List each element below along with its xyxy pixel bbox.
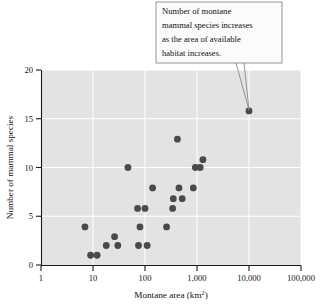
data-point — [94, 252, 101, 259]
y-axis-title: Number of mammal species — [5, 115, 15, 219]
y-tick-label: 20 — [24, 65, 33, 75]
data-point — [163, 224, 170, 231]
data-point — [170, 195, 177, 202]
data-point — [134, 205, 141, 212]
data-point — [169, 205, 176, 212]
x-tick-label: 1,000 — [187, 273, 206, 283]
data-point — [176, 185, 183, 192]
x-axis-title-base: Montane area (km — [134, 290, 201, 300]
x-tick-label: 1 — [39, 273, 43, 283]
data-point — [103, 242, 110, 249]
x-tick-label: 10 — [89, 273, 98, 283]
y-tick-label: 15 — [24, 114, 33, 124]
chart-svg: 0 5 10 15 20 1 10 100 1,000 10,000 100,0… — [0, 0, 326, 308]
data-point — [114, 242, 121, 249]
data-point — [179, 195, 186, 202]
data-point — [197, 164, 204, 171]
callout-line: mammal species increases — [162, 20, 253, 30]
callout-line: habitat increases. — [162, 48, 221, 58]
data-point — [190, 185, 197, 192]
callout-line: as the area of available — [162, 34, 241, 44]
x-tick-label: 100 — [139, 273, 152, 283]
data-point — [137, 224, 144, 231]
y-tick-label: 5 — [29, 211, 33, 221]
data-point — [174, 136, 181, 143]
x-tick-label: 10,000 — [237, 273, 261, 283]
y-tick-label: 0 — [29, 260, 33, 270]
data-point — [135, 242, 142, 249]
x-axis-ticks — [41, 266, 301, 272]
data-point — [125, 164, 132, 171]
data-point — [82, 224, 89, 231]
data-point — [142, 205, 149, 212]
x-tick-label: 100,000 — [287, 273, 315, 283]
x-axis-title-tail: ) — [205, 290, 208, 300]
data-point — [111, 233, 118, 240]
data-point — [87, 252, 94, 259]
x-axis-tick-labels: 1 10 100 1,000 10,000 100,000 — [39, 273, 315, 283]
data-point — [144, 242, 151, 249]
data-point — [149, 185, 156, 192]
y-axis-tick-labels: 0 5 10 15 20 — [24, 65, 33, 270]
scatter-plot-figure: 0 5 10 15 20 1 10 100 1,000 10,000 100,0… — [0, 0, 326, 308]
y-tick-label: 10 — [24, 163, 33, 173]
callout-line: Number of montane — [162, 6, 231, 16]
y-axis-ticks — [36, 70, 41, 265]
data-point — [200, 156, 207, 163]
x-axis-title: Montane area (km2) — [134, 289, 208, 300]
